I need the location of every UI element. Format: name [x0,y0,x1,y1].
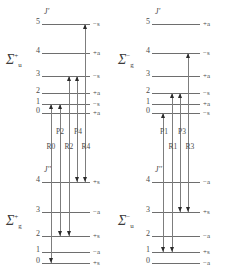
term-sup-lower-left: + [14,213,18,221]
level-line [152,263,200,264]
branch-label-R2: R2 [61,143,77,151]
level-line [152,182,200,183]
branch-label-P1: P1 [156,128,172,136]
level-parity-label: +s [203,249,210,256]
level-parity-label: −a [203,260,210,267]
level-line [152,236,200,237]
level-line [152,104,200,105]
level-line [152,113,200,114]
arrow-head-R1-lower [170,247,174,252]
level-line [42,236,90,237]
level-j-label: 0 [140,257,150,265]
level-line [152,76,200,77]
arrow-head-P2 [58,104,62,109]
transition-line-R4 [85,24,86,182]
term-sup-upper-right: − [126,52,130,60]
level-line [152,24,200,25]
level-line [42,113,90,114]
transition-line-R2 [69,76,70,236]
level-line [42,182,90,183]
arrow-head-R3 [186,53,190,58]
term-sub-upper-right: g [130,61,134,69]
branch-label-P2: P2 [52,128,68,136]
j-heading-upper-right: J' [155,8,160,16]
level-j-label: 4 [30,176,40,184]
branch-label-R1: R1 [165,143,181,151]
level-j-label: 1 [30,246,40,254]
branch-label-P4: P4 [70,128,86,136]
level-parity-label: −a [203,179,210,186]
j-heading-lower-left: J'' [44,166,51,174]
level-parity-label: +s [93,179,100,186]
level-j-label: 4 [30,47,40,55]
level-parity-label: −s [203,90,210,97]
level-line [42,93,90,94]
level-parity-label: +s [93,260,100,267]
branch-label-R4: R4 [78,143,94,151]
term-symbol-lower-left: Σ+g [6,210,22,233]
level-j-label: 2 [30,87,40,95]
level-parity-label: −s [93,73,100,80]
arrow-head-P2-lower [58,231,62,236]
arrow-head-P1-lower [161,247,165,252]
arrow-head-R4-lower [83,177,87,182]
level-parity-label: +a [93,90,100,97]
level-j-label: 2 [140,87,150,95]
level-j-label: 4 [140,176,150,184]
term-sub-lower-right: u [130,222,134,230]
level-j-label: 4 [140,47,150,55]
level-j-label: 1 [30,98,40,106]
level-parity-label: −s [203,110,210,117]
arrow-head-P4-lower [75,177,79,182]
level-line [42,212,90,213]
level-j-label: 3 [140,70,150,78]
energy-level-diagram: J' Σ+u 5 −s 4 +a 3 −s 2 +a 1 −s 0 +a J''… [0,0,226,271]
arrow-head-R0 [49,104,53,109]
level-j-label: 0 [30,257,40,265]
level-line [42,263,90,264]
level-j-label: 2 [30,230,40,238]
arrow-head-R2-lower [67,231,71,236]
level-parity-label: +a [93,50,100,57]
arrow-head-P3 [178,93,182,98]
level-j-label: 3 [30,70,40,78]
level-parity-label: −s [203,50,210,57]
level-j-label: 5 [140,18,150,26]
level-j-label: 1 [140,98,150,106]
level-parity-label: +s [93,233,100,240]
level-line [42,252,90,253]
level-j-label: 3 [30,206,40,214]
level-parity-label: −s [93,21,100,28]
level-parity-label: +a [203,73,210,80]
level-parity-label: +s [203,209,210,216]
level-parity-label: −a [203,233,210,240]
level-j-label: 5 [30,18,40,26]
arrow-head-P3-lower [178,207,182,212]
j-heading-upper-left: J' [44,8,49,16]
term-symbol-upper-left: Σ+u [6,49,22,72]
level-line [152,212,200,213]
level-line [152,252,200,253]
arrow-head-R0-lower [49,258,53,263]
level-parity-label: −a [93,209,100,216]
term-symbol-upper-right: Σ−g [118,49,134,72]
level-line [42,53,90,54]
level-parity-label: +a [203,101,210,108]
term-symbol-lower-right: Σ−u [118,210,134,233]
level-j-label: 1 [140,246,150,254]
j-heading-lower-right: J'' [155,166,162,174]
level-parity-label: −a [93,249,100,256]
arrow-head-R3-lower [186,207,190,212]
level-j-label: 2 [140,230,150,238]
level-j-label: 0 [140,107,150,115]
level-line [152,53,200,54]
transition-line-P2 [60,104,61,236]
level-parity-label: +a [203,21,210,28]
arrow-head-R4 [83,24,87,29]
arrow-head-P4 [75,76,79,81]
branch-label-R0: R0 [43,143,59,151]
branch-label-R3: R3 [182,143,198,151]
level-parity-label: +a [93,110,100,117]
level-j-label: 3 [140,206,150,214]
transition-line-R1 [172,93,173,252]
